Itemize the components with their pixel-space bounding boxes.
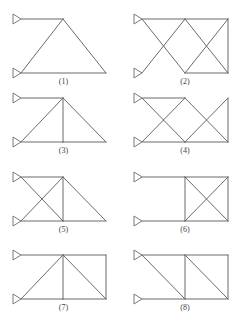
pin-support-icon <box>134 216 142 226</box>
panel-label: (6) <box>180 225 190 234</box>
truss-member <box>63 19 106 73</box>
truss-panel-4: (4) <box>134 93 228 155</box>
truss-panel-1: (1) <box>13 14 106 86</box>
truss-member <box>63 255 106 299</box>
panel-label: (5) <box>59 225 69 234</box>
truss-panel-5: (5) <box>13 172 106 234</box>
panel-label: (3) <box>59 146 69 155</box>
pin-support-icon <box>13 250 21 260</box>
pin-support-icon <box>13 216 21 226</box>
truss-panel-3: (3) <box>13 93 106 155</box>
truss-member <box>21 98 63 142</box>
truss-member <box>185 255 228 299</box>
panel-label: (7) <box>59 303 69 312</box>
pin-support-icon <box>134 68 142 78</box>
pin-support-icon <box>13 93 21 103</box>
panel-label: (4) <box>180 146 190 155</box>
truss-panel-6: (6) <box>134 172 228 234</box>
panel-label: (8) <box>180 303 190 312</box>
pin-support-icon <box>134 172 142 182</box>
truss-member <box>63 98 106 142</box>
truss-panel-7: (7) <box>13 250 106 312</box>
truss-panel-8: (8) <box>134 250 228 312</box>
truss-figure: (1)(2)(3)(4)(5)(6)(7)(8) <box>0 0 242 327</box>
pin-support-icon <box>13 172 21 182</box>
pin-support-icon <box>13 14 21 24</box>
pin-support-icon <box>134 93 142 103</box>
truss-member <box>63 177 106 221</box>
pin-support-icon <box>134 137 142 147</box>
pin-support-icon <box>13 68 21 78</box>
pin-support-icon <box>134 294 142 304</box>
truss-member <box>142 255 185 299</box>
truss-panel-2: (2) <box>134 14 228 86</box>
truss-member <box>21 19 63 73</box>
truss-member <box>21 255 63 299</box>
panel-label: (2) <box>180 77 190 86</box>
panel-label: (1) <box>59 77 69 86</box>
pin-support-icon <box>134 250 142 260</box>
pin-support-icon <box>13 137 21 147</box>
pin-support-icon <box>134 14 142 24</box>
pin-support-icon <box>13 294 21 304</box>
